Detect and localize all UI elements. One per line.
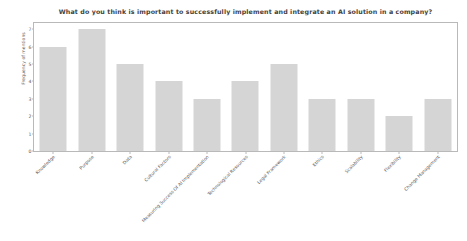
bar-slot — [34, 23, 72, 151]
x-tick-mark — [91, 151, 92, 154]
x-tick-label: Technological Resources — [207, 155, 249, 197]
y-axis-label: Frequency of mentions — [21, 14, 26, 104]
bar-slot — [380, 23, 418, 151]
plot-area: 01234567 KnowledgePurposeDataCultural Fa… — [34, 23, 457, 151]
x-tick-mark — [322, 151, 323, 154]
x-tick-label: Flexibility — [384, 155, 402, 173]
x-tick-label: Purpose — [79, 155, 95, 171]
bar — [309, 99, 336, 151]
x-tick-mark — [130, 151, 131, 154]
bar-slot — [303, 23, 341, 151]
x-tick-label: Cultural Factors — [144, 155, 172, 183]
bar — [194, 99, 221, 151]
bar-slot — [72, 23, 110, 151]
x-tick-label: Change Management — [404, 155, 441, 192]
bar — [347, 99, 374, 151]
x-tick-mark — [53, 151, 54, 154]
bar-chart-figure: What do you think is important to succes… — [0, 0, 467, 241]
y-tick-label: 4 — [29, 79, 32, 84]
chart-title: What do you think is important to succes… — [33, 9, 458, 15]
bar-slot — [188, 23, 226, 151]
bar — [270, 64, 297, 151]
x-tick-label: Knowledge — [36, 155, 57, 176]
y-tick-label: 1 — [29, 131, 32, 136]
x-tick-mark — [399, 151, 400, 154]
y-tick-label: 6 — [29, 44, 32, 49]
y-tick-label: 7 — [29, 27, 32, 32]
bar — [232, 81, 259, 151]
bar-slot — [149, 23, 187, 151]
bar-slot — [226, 23, 264, 151]
bar — [117, 64, 144, 151]
bar — [78, 29, 105, 151]
x-tick-mark — [168, 151, 169, 154]
x-tick-mark — [437, 151, 438, 154]
y-tick-label: 2 — [29, 114, 32, 119]
x-tick-label: Data — [123, 155, 134, 166]
bar — [155, 81, 182, 151]
x-tick-label: Scalability — [344, 155, 364, 175]
bar — [386, 116, 413, 151]
x-tick-label: Measuring Success Of AI Implementation — [142, 155, 211, 224]
x-tick-mark — [283, 151, 284, 154]
bar-slot — [419, 23, 457, 151]
y-tick-label: 5 — [29, 61, 32, 66]
x-tick-label: Ethics — [313, 155, 326, 168]
bar-slot — [342, 23, 380, 151]
bar-slot — [265, 23, 303, 151]
x-tick-mark — [360, 151, 361, 154]
y-tick-label: 0 — [29, 149, 32, 154]
x-tick-label: Legal Framework — [257, 155, 287, 185]
bar — [40, 47, 67, 151]
y-tick-label: 3 — [29, 96, 32, 101]
bar — [424, 99, 451, 151]
bar-slot — [111, 23, 149, 151]
